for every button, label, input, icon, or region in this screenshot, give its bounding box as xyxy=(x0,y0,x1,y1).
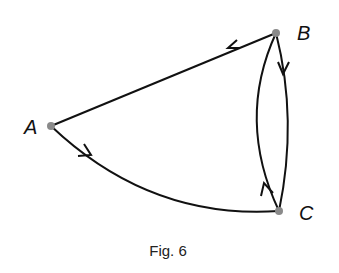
node-a xyxy=(47,122,55,130)
edge-c-to-b xyxy=(257,33,279,211)
arrowhead-b-to-a xyxy=(228,40,240,48)
label-a: A xyxy=(23,116,37,138)
label-b: B xyxy=(297,22,310,44)
figure-caption: Fig. 6 xyxy=(149,242,187,259)
edge-b-to-a xyxy=(51,33,276,126)
node-c xyxy=(275,207,283,215)
edge-b-to-c xyxy=(276,33,288,211)
directed-graph: A B C Fig. 6 xyxy=(0,0,339,273)
node-b xyxy=(272,29,280,37)
edge-a-to-c xyxy=(51,126,279,212)
label-c: C xyxy=(299,202,314,224)
